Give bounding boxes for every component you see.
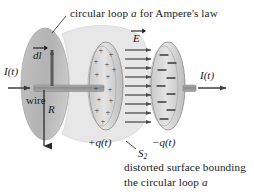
label-dl-vector: dl [33,50,42,61]
figure-canvas: ++ ++ + ++ ++ ++ ++ + [0,0,254,194]
leader-line-loop [52,16,66,33]
label-charge-positive: +q(t) [88,137,111,148]
label-e-field: E [133,33,140,44]
title-circular-loop: circular loop a for Ampere's law [70,8,218,19]
caption-line-1: distorted surface bounding [124,162,246,173]
svg-text:+: + [112,64,117,74]
label-surface-s2: S2 [138,148,147,160]
svg-text:+: + [101,116,106,126]
surface-subscript: 2 [144,152,148,161]
svg-text:+: + [109,49,114,59]
svg-text:+: + [95,69,100,79]
ampere-loop-a [21,28,69,140]
label-wire: wire [26,95,46,106]
svg-text:+: + [105,59,110,69]
svg-text:+: + [94,56,99,66]
label-charge-negative: −q(t) [152,137,175,148]
caption-line-2: the circular loop a [124,177,208,188]
label-current-left: I(t) [4,66,18,77]
svg-text:+: + [106,107,111,117]
svg-text:+: + [108,84,113,94]
label-current-right: I(t) [200,70,214,81]
svg-text:+: + [97,94,102,104]
svg-text:+: + [106,71,111,81]
svg-text:+: + [94,83,99,93]
wire-right-segment [183,85,196,92]
svg-text:+: + [109,95,114,105]
svg-text:+: + [95,105,100,115]
leader-line-s2 [126,141,136,149]
svg-text:+: + [99,45,104,55]
label-radius-r: R [48,104,55,115]
